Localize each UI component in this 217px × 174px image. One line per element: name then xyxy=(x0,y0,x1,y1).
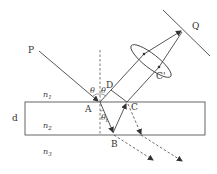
label-thickness-d: d xyxy=(12,113,18,123)
film-slab xyxy=(25,102,205,135)
wavefront-dc xyxy=(111,90,127,102)
transmitted-ray-c2 xyxy=(141,135,182,161)
label-theta-t: θt xyxy=(101,113,109,123)
transmitted-ray-b xyxy=(114,135,153,160)
label-n1: n1 xyxy=(43,90,52,100)
label-c: C xyxy=(131,102,138,112)
screen-line xyxy=(163,10,210,56)
reflected-ray-1 xyxy=(100,54,144,102)
label-a: A xyxy=(84,104,92,114)
label-theta-reflected: θ xyxy=(101,86,106,95)
thin-film-diagram: P Q A B C C' D d n1 n2 n3 θ θ θt xyxy=(0,0,217,174)
label-theta-incident: θ xyxy=(90,86,95,95)
label-b: B xyxy=(111,139,118,149)
label-n3: n3 xyxy=(43,147,52,157)
label-p: P xyxy=(28,45,34,55)
label-q: Q xyxy=(192,21,199,31)
lens-point-1 xyxy=(143,53,146,56)
label-c-prime: C' xyxy=(156,71,165,81)
label-n2: n2 xyxy=(43,121,52,131)
reflected-ray-bc xyxy=(113,104,126,133)
label-d: D xyxy=(106,80,113,90)
lens-point-c-prime xyxy=(158,66,161,69)
